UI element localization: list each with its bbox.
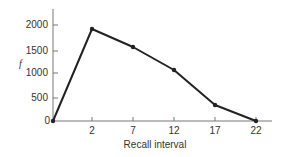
x-tick-label: 17	[209, 125, 221, 136]
x-axis-label: Recall interval	[124, 139, 187, 150]
y-tick-label: 0	[44, 115, 50, 126]
x-tick-label: 7	[130, 125, 136, 136]
y-tick-label: 1500	[26, 45, 49, 56]
x-tick-label: 2	[89, 125, 95, 136]
y-axis-label: f	[19, 58, 23, 69]
x-tick-label: 22	[250, 125, 262, 136]
y-tick-label: 2000	[26, 19, 49, 30]
x-tick-label: 12	[168, 125, 180, 136]
data-series-line	[53, 29, 256, 121]
x-ticks: 2 7 12 17 22	[89, 117, 262, 136]
y-tick-label: 500	[31, 92, 48, 103]
line-chart: 2000 1500 1000 500 0 f 2 7 12 17 22 Reca…	[0, 0, 288, 157]
y-tick-label: 1000	[26, 67, 49, 78]
